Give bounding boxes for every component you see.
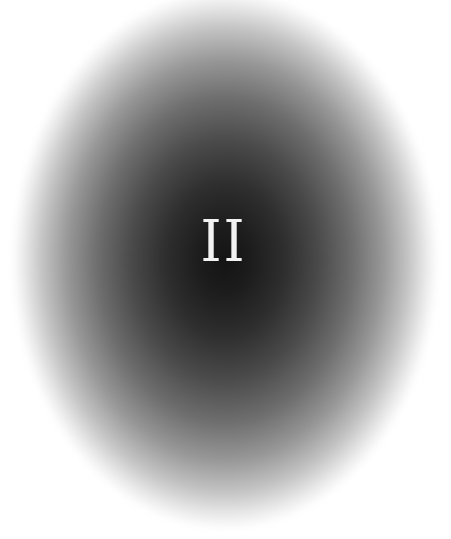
decorative-canvas: II (0, 0, 451, 539)
roman-numeral-label: II (16, 206, 431, 276)
